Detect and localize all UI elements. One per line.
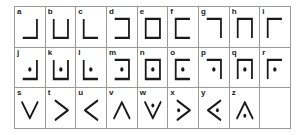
cipher-cell-k: k	[46, 48, 77, 89]
cipher-cell-i: i	[260, 7, 291, 48]
cell-letter-label: p	[201, 48, 206, 58]
cell-letter-label: h	[232, 7, 237, 17]
cell-letter-label: b	[48, 7, 53, 17]
cipher-cell-y: y	[199, 88, 230, 129]
cipher-cell-m: m	[107, 48, 138, 89]
cell-letter-label: v	[109, 88, 113, 98]
cell-letter-label: i	[262, 7, 264, 17]
cell-letter-label: x	[170, 88, 174, 98]
cell-letter-label: l	[78, 48, 80, 58]
cipher-cell-z: z	[230, 88, 261, 129]
cipher-glyph-i-icon	[260, 7, 290, 47]
cell-letter-label: z	[232, 88, 236, 98]
cipher-cell-s: s	[15, 88, 46, 129]
cipher-cell-q: q	[230, 48, 261, 89]
cipher-grid: abcdefghijklmnopqrstuvwxyz	[14, 6, 291, 129]
cipher-cell-e: e	[138, 7, 169, 48]
cipher-glyph-l-icon	[76, 48, 106, 88]
cipher-cell-a: a	[15, 7, 46, 48]
cipher-cell-b: b	[46, 7, 77, 48]
cell-letter-label: m	[109, 48, 116, 58]
cipher-cell-h: h	[230, 7, 261, 48]
cell-letter-label: j	[17, 48, 19, 58]
cipher-cell-j: j	[15, 48, 46, 89]
cell-letter-label: u	[78, 88, 83, 98]
cipher-cell-g: g	[199, 7, 230, 48]
cipher-cell-r: r	[260, 48, 291, 89]
cipher-cell-empty	[260, 88, 291, 129]
cell-letter-label: n	[140, 48, 145, 58]
cipher-cell-p: p	[199, 48, 230, 89]
cipher-glyph-j-icon	[15, 48, 45, 88]
cipher-cell-x: x	[168, 88, 199, 129]
cell-letter-label: s	[17, 88, 21, 98]
cell-letter-label: t	[48, 88, 51, 98]
cell-letter-label: c	[78, 7, 82, 17]
cell-letter-label: y	[201, 88, 205, 98]
cell-letter-label: w	[140, 88, 146, 98]
cipher-cell-f: f	[168, 7, 199, 48]
cell-letter-label: o	[170, 48, 175, 58]
cell-letter-label: g	[201, 7, 206, 17]
cipher-cell-n: n	[138, 48, 169, 89]
cipher-cell-o: o	[168, 48, 199, 89]
cell-letter-label: r	[262, 48, 265, 58]
cell-letter-label: q	[232, 48, 237, 58]
cipher-cell-c: c	[76, 7, 107, 48]
cell-letter-label: d	[109, 7, 114, 17]
cell-letter-label: e	[140, 7, 144, 17]
cipher-cell-t: t	[46, 88, 77, 129]
cipher-cell-d: d	[107, 7, 138, 48]
cell-letter-label: a	[17, 7, 21, 17]
cipher-cell-v: v	[107, 88, 138, 129]
cipher-cell-w: w	[138, 88, 169, 129]
pigpen-cipher-chart: abcdefghijklmnopqrstuvwxyz	[0, 0, 305, 135]
cipher-cell-u: u	[76, 88, 107, 129]
cipher-cell-l: l	[76, 48, 107, 89]
cell-letter-label: f	[170, 7, 173, 17]
cell-letter-label: k	[48, 48, 52, 58]
